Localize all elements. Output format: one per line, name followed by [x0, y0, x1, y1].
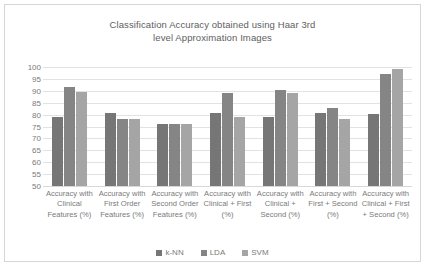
bar-k-NN-7[interactable]	[368, 114, 379, 186]
bar-SVM-7[interactable]	[392, 69, 403, 186]
bar-LDA-3[interactable]	[169, 124, 180, 186]
bar-LDA-5[interactable]	[275, 90, 286, 186]
bar-LDA-7[interactable]	[380, 74, 391, 186]
y-axis-tick-85: 85	[32, 98, 41, 107]
legend-label-SVM: SVM	[251, 248, 268, 257]
bar-k-NN-2[interactable]	[105, 113, 116, 186]
bar-LDA-4[interactable]	[222, 93, 233, 186]
legend-item-SVM[interactable]: SVM	[242, 248, 268, 257]
y-axis-tick-65: 65	[32, 146, 41, 155]
bar-k-NN-6[interactable]	[315, 113, 326, 186]
x-axis-category-3: Accuracy with Second Order Features (%)	[148, 189, 201, 220]
legend-swatch-icon-LDA	[201, 250, 207, 256]
bar-group	[96, 67, 149, 186]
x-axis-category-1: Accuracy with Clinical Features (%)	[43, 189, 96, 220]
y-axis-tick-50: 50	[32, 182, 41, 191]
gridline-50	[43, 186, 412, 187]
x-axis-category-2: Accuracy with First Order Features (%)	[96, 189, 149, 220]
bars-layer	[43, 67, 412, 186]
bar-LDA-1[interactable]	[64, 87, 75, 186]
bar-group	[307, 67, 360, 186]
chart-legend: k-NNLDASVM	[5, 248, 420, 257]
bar-SVM-1[interactable]	[76, 92, 87, 186]
bar-SVM-2[interactable]	[129, 119, 140, 186]
bar-group	[43, 67, 96, 186]
chart-title-line-2: level Approximation Images	[5, 32, 420, 45]
bar-k-NN-3[interactable]	[157, 124, 168, 186]
x-axis-category-7: Accuracy with Clinical + First + Second …	[359, 189, 412, 220]
bar-group	[201, 67, 254, 186]
y-axis-tick-70: 70	[32, 134, 41, 143]
bar-group	[359, 67, 412, 186]
legend-item-k-NN[interactable]: k-NN	[156, 248, 183, 257]
x-axis-labels: Accuracy with Clinical Features (%)Accur…	[43, 189, 412, 220]
y-axis-tick-75: 75	[32, 122, 41, 131]
y-axis-labels: 10095908580757065605550	[19, 67, 41, 186]
bar-SVM-5[interactable]	[287, 93, 298, 186]
bar-LDA-2[interactable]	[117, 119, 128, 186]
legend-swatch-icon-k-NN	[156, 250, 162, 256]
bar-LDA-6[interactable]	[327, 108, 338, 186]
x-axis-category-4: Accuracy with Clinical + First (%)	[201, 189, 254, 220]
y-axis-tick-100: 100	[28, 63, 41, 72]
y-axis-tick-80: 80	[32, 110, 41, 119]
bar-group	[148, 67, 201, 186]
x-axis-category-5: Accuracy with Clinical + Second (%)	[254, 189, 307, 220]
y-axis-tick-95: 95	[32, 74, 41, 83]
bar-k-NN-5[interactable]	[263, 117, 274, 186]
bar-group	[254, 67, 307, 186]
bar-SVM-4[interactable]	[234, 117, 245, 186]
chart-title: Classification Accuracy obtained using H…	[5, 19, 420, 44]
plot-area	[43, 67, 412, 186]
x-axis-category-6: Accuracy with First + Second (%)	[307, 189, 360, 220]
chart-frame: Classification Accuracy obtained using H…	[4, 4, 421, 262]
legend-swatch-icon-SVM	[242, 250, 248, 256]
legend-label-k-NN: k-NN	[165, 248, 183, 257]
bar-k-NN-1[interactable]	[52, 117, 63, 186]
legend-label-LDA: LDA	[210, 248, 226, 257]
chart-title-line-1: Classification Accuracy obtained using H…	[5, 19, 420, 32]
bar-SVM-6[interactable]	[339, 119, 350, 186]
bar-k-NN-4[interactable]	[210, 113, 221, 186]
bar-SVM-3[interactable]	[181, 124, 192, 186]
legend-item-LDA[interactable]: LDA	[201, 248, 226, 257]
y-axis-tick-60: 60	[32, 158, 41, 167]
y-axis-tick-90: 90	[32, 86, 41, 95]
y-axis-tick-55: 55	[32, 170, 41, 179]
